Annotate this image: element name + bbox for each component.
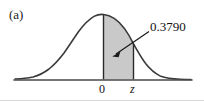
x-axis-tick-zero: 0 bbox=[99, 82, 105, 97]
normal-curve-figure: (a) 0.3790 0 z bbox=[0, 0, 204, 101]
x-axis-tick-z: z bbox=[130, 82, 135, 97]
shaded-area-region bbox=[104, 15, 134, 80]
panel-label: (a) bbox=[9, 7, 23, 23]
area-value-annotation: 0.3790 bbox=[150, 19, 186, 35]
bottom-divider bbox=[0, 100, 204, 101]
